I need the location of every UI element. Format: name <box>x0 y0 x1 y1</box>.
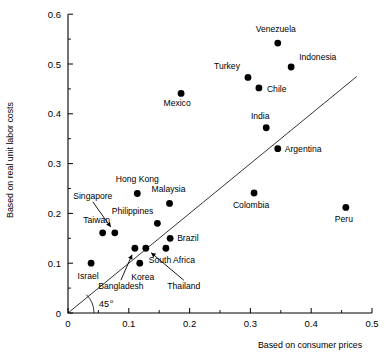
y-tick-label-0: 0 <box>56 308 61 319</box>
data-point-chile <box>256 85 263 92</box>
data-point-indonesia <box>288 64 295 71</box>
forty-five-degree-label: 45 <box>99 299 109 309</box>
data-point-turkey <box>245 74 252 81</box>
y-tick-label-2: 0.2 <box>48 208 61 219</box>
point-label-korea: Korea <box>131 272 154 282</box>
y-tick-label-1: 0.1 <box>48 258 61 269</box>
point-label-india: India <box>251 111 270 121</box>
point-label-peru: Peru <box>335 214 353 224</box>
data-point-malaysia <box>166 200 173 207</box>
degree-symbol: o <box>110 298 114 304</box>
data-point-hong-kong <box>134 190 141 197</box>
x-tick-label-5: 0.5 <box>365 318 378 329</box>
data-point-philippines <box>154 220 161 227</box>
y-tick-label-3: 0.3 <box>48 158 61 169</box>
point-label-hong-kong: Hong Kong <box>116 174 159 184</box>
y-tick-label-6: 0.6 <box>48 9 61 20</box>
point-label-brazil: Brazil <box>177 233 199 243</box>
x-tick-label-3: 0.3 <box>244 318 257 329</box>
point-label-turkey: Turkey <box>214 61 241 71</box>
point-label-south-africa: South Africa <box>149 255 196 265</box>
point-label-taiwan: Taiwan <box>83 215 110 225</box>
data-point-india <box>263 124 270 131</box>
point-label-israel: Israel <box>78 271 99 281</box>
data-point-south-africa <box>162 245 169 252</box>
x-tick-label-4: 0.4 <box>305 318 318 329</box>
data-point-korea <box>136 260 143 267</box>
y-tick-label-4: 0.4 <box>48 108 61 119</box>
x-tick-label-1: 0.1 <box>122 318 135 329</box>
data-point-israel <box>88 260 95 267</box>
data-point-venezuela <box>274 40 281 47</box>
y-axis-title: Based on real unit labor costs <box>5 101 15 217</box>
point-label-chile: Chile <box>267 84 287 94</box>
data-point-singapore <box>111 229 118 236</box>
point-label-mexico: Mexico <box>163 98 190 108</box>
point-label-colombia: Colombia <box>233 200 270 210</box>
point-label-indonesia: Indonesia <box>299 52 336 62</box>
x-tick-label-2: 0.2 <box>183 318 196 329</box>
x-tick-label-0: 0 <box>65 318 70 329</box>
point-label-argentina: Argentina <box>285 144 322 154</box>
data-point-argentina <box>274 145 281 152</box>
point-label-thailand: Thailand <box>167 281 200 291</box>
data-point-thailand <box>142 245 149 252</box>
point-label-venezuela: Venezuela <box>256 24 296 34</box>
data-point-peru <box>342 204 349 211</box>
point-label-singapore: Singapore <box>73 191 112 201</box>
y-tick-label-5: 0.5 <box>48 59 61 70</box>
x-axis-title: Based on consumer prices <box>258 340 363 350</box>
point-label-philippines: Philippines <box>112 206 154 216</box>
data-point-labels: VenezuelaIndonesiaTurkeyChileMexicoIndia… <box>73 24 353 291</box>
plot-canvas: 45o 00.10.20.30.40.500.10.20.30.40.50.6 … <box>0 0 385 357</box>
point-label-bangladesh: Bangladesh <box>98 281 144 291</box>
data-point-taiwan <box>99 229 106 236</box>
data-point-colombia <box>251 190 258 197</box>
point-label-malaysia: Malaysia <box>152 184 186 194</box>
data-point-brazil <box>167 235 174 242</box>
scatter-plot-figure: 45o 00.10.20.30.40.500.10.20.30.40.50.6 … <box>0 0 385 357</box>
data-point-mexico <box>178 90 185 97</box>
data-point-bangladesh <box>131 245 138 252</box>
